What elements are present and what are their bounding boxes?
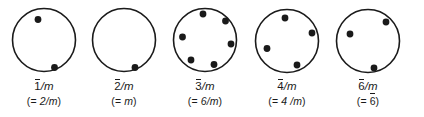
symmetry-point-3 — [228, 41, 235, 48]
hermann-mauguin-symbol: 2/m — [111, 80, 136, 94]
equivalent-body: m — [124, 95, 133, 107]
point-group-1: 1/m(= 2/m) — [2, 0, 86, 117]
symmetry-point-3 — [371, 65, 378, 72]
symmetry-point-3 — [294, 62, 301, 69]
equivalent-suffix: ) — [219, 95, 223, 107]
projection-circle — [93, 9, 156, 72]
equivalent-prefix: (= — [188, 95, 201, 107]
symmetry-point-1 — [282, 15, 289, 22]
symmetry-point-5 — [188, 57, 195, 64]
stereogram-4 — [245, 0, 329, 78]
equivalent-prefix: (= — [357, 95, 370, 107]
stereogram-2 — [82, 0, 166, 78]
equivalent-symbol: (= 6) — [357, 95, 379, 107]
point-group-4: 4/m(= 4 /m) — [245, 0, 329, 117]
equivalent-suffix: ) — [133, 95, 137, 107]
equivalent-symbol: (= 6/m) — [188, 95, 222, 107]
symmetry-point-2 — [309, 30, 316, 37]
equivalent-suffix: ) — [58, 95, 62, 107]
group-labels: 4/m(= 4 /m) — [268, 80, 305, 107]
symbol-suffix: /m — [365, 80, 378, 92]
point-group-3: 3/m(= 6/m) — [163, 0, 247, 117]
group-labels: 6/m(= 6) — [357, 80, 379, 107]
equivalent-prefix: (= — [27, 95, 40, 107]
group-labels: 2/m(= m) — [111, 80, 136, 107]
symmetry-point-2 — [347, 31, 354, 38]
equivalent-prefix: (= — [268, 95, 281, 107]
hermann-mauguin-symbol: 1/m — [27, 80, 61, 94]
overbar-digit: 1 — [34, 80, 41, 94]
projection-circle — [13, 9, 76, 72]
hermann-mauguin-symbol: 4/m — [268, 80, 305, 94]
hermann-mauguin-symbol: 6/m — [357, 80, 379, 94]
stereogram-5 — [326, 0, 410, 78]
projection-circle — [337, 10, 400, 73]
equivalent-symbol: (= 2/m) — [27, 95, 61, 107]
equivalent-symbol: (= 4 /m) — [268, 95, 305, 107]
equivalent-body: 6/m — [201, 95, 219, 107]
symbol-suffix: /m — [41, 80, 54, 92]
symmetry-point-1 — [200, 11, 207, 18]
group-labels: 3/m(= 6/m) — [188, 80, 222, 107]
symmetry-point-2 — [51, 64, 58, 71]
stereogram-3 — [163, 0, 247, 78]
symmetry-point-2 — [222, 18, 229, 25]
symmetry-point-1 — [35, 16, 42, 23]
symmetry-point-6 — [179, 34, 186, 41]
equivalent-symbol: (= m) — [111, 95, 136, 107]
point-group-2: 2/m(= m) — [82, 0, 166, 117]
group-labels: 1/m(= 2/m) — [27, 80, 61, 107]
symbol-suffix: /m — [121, 80, 134, 92]
symmetry-point-1 — [132, 64, 139, 71]
overbar-digit: 4 — [277, 80, 284, 94]
hermann-mauguin-symbol: 3/m — [188, 80, 222, 94]
equivalent-body: 4 /m — [281, 95, 302, 107]
equivalent-overbar-digit: 6 — [370, 95, 376, 107]
equivalent-suffix: ) — [376, 95, 380, 107]
stereographic-projection-figure: 1/m(= 2/m)2/m(= m)3/m(= 6/m)4/m(= 4 /m)6… — [0, 0, 424, 117]
symmetry-point-4 — [211, 61, 218, 68]
symbol-suffix: /m — [202, 80, 215, 92]
overbar-digit: 3 — [195, 80, 202, 94]
equivalent-prefix: (= — [111, 95, 124, 107]
stereogram-1 — [2, 0, 86, 78]
overbar-digit: 2 — [114, 80, 121, 94]
equivalent-suffix: ) — [302, 95, 306, 107]
symmetry-point-4 — [264, 45, 271, 52]
point-group-5: 6/m(= 6) — [326, 0, 410, 117]
symbol-suffix: /m — [284, 80, 297, 92]
equivalent-body: 2/m — [40, 95, 58, 107]
symmetry-point-1 — [383, 19, 390, 26]
overbar-digit: 6 — [358, 80, 365, 94]
